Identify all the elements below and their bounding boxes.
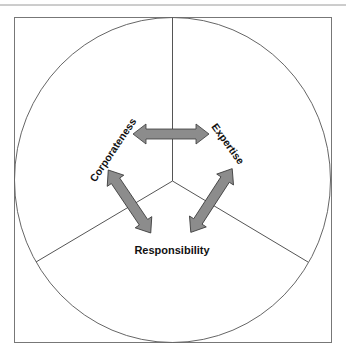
arrow-expertise-responsibility: [182, 163, 240, 238]
arrow-corporateness-expertise: [133, 124, 209, 144]
sector-divider-lines: [36, 18, 308, 263]
label-expertise: Expertise: [209, 121, 247, 166]
label-responsibility: Responsibility: [134, 244, 210, 256]
diagram-canvas: Corporateness Expertise Responsibility: [0, 0, 346, 356]
arrow-corporateness-responsibility: [100, 164, 159, 238]
